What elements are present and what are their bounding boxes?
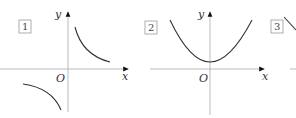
panel-2: 2 y O x xyxy=(145,8,269,115)
origin-label: O xyxy=(199,72,208,85)
panel-label: 3 xyxy=(274,21,280,32)
hyperbola-branch-q1 xyxy=(75,27,110,62)
origin-label: O xyxy=(56,72,65,85)
x-axis-label: x xyxy=(262,70,269,83)
panel-3: 3 xyxy=(271,17,296,69)
function-graphs-figure: 1 y O x 2 y O x 3 xyxy=(0,0,296,118)
x-axis-label: x xyxy=(122,70,129,83)
panel-label: 2 xyxy=(148,22,154,33)
y-axis-label: y xyxy=(54,8,62,21)
partial-curve xyxy=(284,17,296,30)
y-axis-label: y xyxy=(197,8,205,21)
parabola-curve xyxy=(170,20,252,62)
hyperbola-branch-q3 xyxy=(23,84,61,110)
panel-label: 1 xyxy=(22,21,28,32)
panel-1: 1 y O xyxy=(0,8,128,112)
